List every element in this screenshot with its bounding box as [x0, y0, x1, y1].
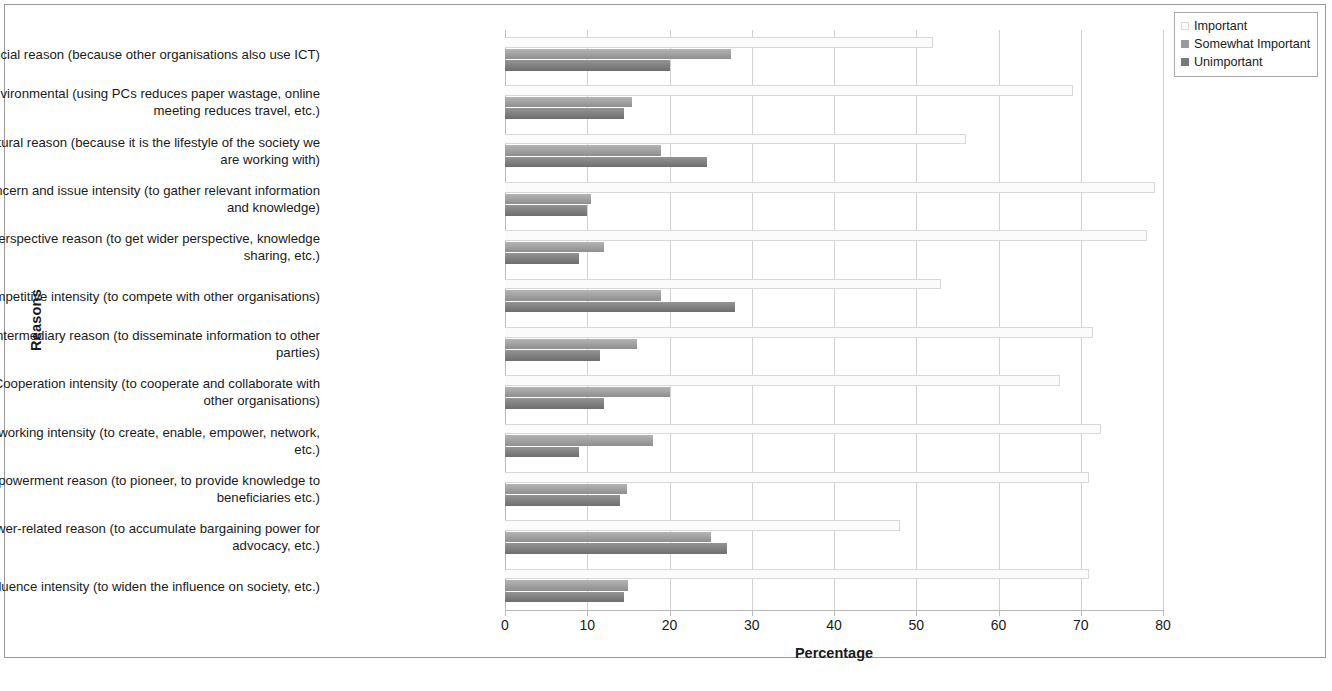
category-label: Networking intensity (to create, enable,…	[0, 424, 320, 458]
x-tick-mark-50	[916, 611, 917, 616]
category-label: Environmental (using PCs reduces paper w…	[0, 85, 320, 119]
bar-row: Cultural reason (because it is the lifes…	[0, 127, 1163, 175]
bar-somewhat-important	[505, 242, 604, 253]
bar-important	[505, 569, 1089, 580]
x-tick-label-0: 0	[485, 617, 525, 633]
bar-important	[505, 520, 900, 531]
bar-unimportant	[505, 447, 579, 458]
legend-label: Somewhat Important	[1194, 37, 1310, 51]
bar-somewhat-important	[505, 387, 670, 398]
x-tick-mark-40	[834, 611, 835, 616]
category-label: Intermediary reason (to disseminate info…	[0, 327, 320, 361]
x-tick-label-20: 20	[650, 617, 690, 633]
x-tick-mark-0	[505, 611, 506, 616]
legend-label: Unimportant	[1194, 55, 1263, 69]
bar-important	[505, 182, 1155, 193]
x-tick-label-70: 70	[1061, 617, 1101, 633]
bar-row: Power-related reason (to accumulate barg…	[0, 513, 1163, 561]
bar-somewhat-important	[505, 339, 637, 350]
category-label: Perspective reason (to get wider perspec…	[0, 230, 320, 264]
x-tick-mark-60	[999, 611, 1000, 616]
bar-row: Perspective reason (to get wider perspec…	[0, 223, 1163, 271]
bar-row: Cooperation intensity (to cooperate and …	[0, 368, 1163, 416]
x-tick-mark-30	[752, 611, 753, 616]
bar-unimportant	[505, 157, 707, 168]
legend-swatch-icon	[1181, 40, 1189, 48]
legend-item-important[interactable]: Important	[1181, 17, 1311, 35]
bar-row: Intermediary reason (to disseminate info…	[0, 320, 1163, 368]
legend-item-unimportant[interactable]: Unimportant	[1181, 53, 1311, 71]
bar-group	[505, 374, 1163, 410]
bar-row: Empowerment reason (to pioneer, to provi…	[0, 465, 1163, 513]
legend-swatch-icon	[1181, 58, 1189, 66]
x-tick-label-60: 60	[979, 617, 1019, 633]
legend-swatch-icon	[1181, 22, 1189, 30]
bar-important	[505, 230, 1147, 241]
bar-row: Concern and issue intensity (to gather r…	[0, 175, 1163, 223]
x-axis-title: Percentage	[505, 645, 1163, 661]
category-label: Social reason (because other organisatio…	[0, 46, 320, 63]
bar-important	[505, 424, 1101, 435]
bar-unimportant	[505, 543, 727, 554]
x-tick-mark-70	[1081, 611, 1082, 616]
category-label: Empowerment reason (to pioneer, to provi…	[0, 472, 320, 506]
bar-somewhat-important	[505, 97, 632, 108]
bar-unimportant	[505, 108, 624, 119]
bar-group	[505, 519, 1163, 555]
bar-unimportant	[505, 302, 735, 313]
bar-important	[505, 327, 1093, 338]
bar-group	[505, 36, 1163, 72]
gridline-80	[1163, 30, 1164, 610]
bar-somewhat-important	[505, 145, 661, 156]
bar-somewhat-important	[505, 435, 653, 446]
bar-rows: Social reason (because other organisatio…	[0, 30, 1163, 610]
bar-group	[505, 133, 1163, 169]
bar-group	[505, 84, 1163, 120]
bar-important	[505, 134, 966, 145]
bar-group	[505, 278, 1163, 314]
bar-group	[505, 568, 1163, 604]
bar-group	[505, 181, 1163, 217]
bar-somewhat-important	[505, 484, 627, 495]
bar-important	[505, 375, 1060, 386]
x-tick-label-50: 50	[896, 617, 936, 633]
x-tick-label-80: 80	[1143, 617, 1183, 633]
bar-unimportant	[505, 253, 579, 264]
bar-group	[505, 326, 1163, 362]
x-axis-ticks: 01020304050607080	[505, 611, 1163, 623]
bar-unimportant	[505, 350, 600, 361]
chart-page: Reasons Social reason (because other org…	[0, 0, 1332, 691]
category-label: Concern and issue intensity (to gather r…	[0, 182, 320, 216]
bar-row: Environmental (using PCs reduces paper w…	[0, 78, 1163, 126]
bar-somewhat-important	[505, 532, 711, 543]
x-tick-label-40: 40	[814, 617, 854, 633]
category-label: Power-related reason (to accumulate barg…	[0, 520, 320, 554]
bar-important	[505, 279, 941, 290]
chart-legend: ImportantSomewhat ImportantUnimportant	[1174, 12, 1318, 77]
bar-somewhat-important	[505, 290, 661, 301]
bar-important	[505, 85, 1073, 96]
bar-somewhat-important	[505, 580, 628, 591]
bar-row: Competitive intensity (to compete with o…	[0, 272, 1163, 320]
bar-row: Networking intensity (to create, enable,…	[0, 417, 1163, 465]
bar-unimportant	[505, 592, 624, 603]
bar-unimportant	[505, 398, 604, 409]
legend-item-somewhat-important[interactable]: Somewhat Important	[1181, 35, 1311, 53]
bar-somewhat-important	[505, 49, 731, 60]
bar-important	[505, 37, 933, 48]
category-label: Cultural reason (because it is the lifes…	[0, 134, 320, 168]
bar-row: Social reason (because other organisatio…	[0, 30, 1163, 78]
legend-label: Important	[1194, 19, 1247, 33]
bar-group	[505, 471, 1163, 507]
bar-group	[505, 229, 1163, 265]
bar-unimportant	[505, 495, 620, 506]
x-tick-mark-80	[1163, 611, 1164, 616]
bar-unimportant	[505, 205, 587, 216]
x-tick-label-10: 10	[567, 617, 607, 633]
bar-row: Influence intensity (to widen the influe…	[0, 562, 1163, 610]
category-label: Influence intensity (to widen the influe…	[0, 577, 320, 594]
x-tick-mark-10	[587, 611, 588, 616]
category-label: Competitive intensity (to compete with o…	[0, 287, 320, 304]
x-tick-label-30: 30	[732, 617, 772, 633]
category-label: Cooperation intensity (to cooperate and …	[0, 375, 320, 409]
